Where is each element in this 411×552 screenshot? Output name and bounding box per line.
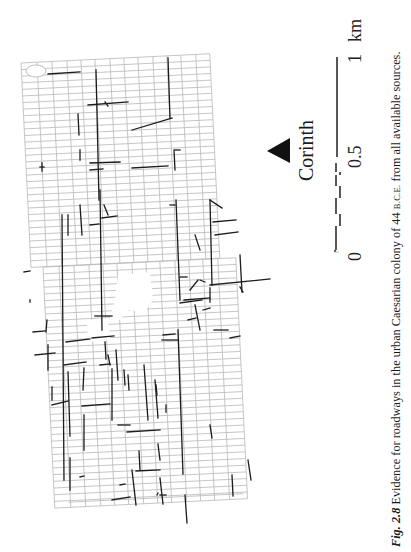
city-label: Corinth [295,120,318,181]
scale-label-half: 0.5 [345,146,366,169]
scale-label-unit: km [345,19,366,42]
era-label: B.C.E. [392,185,402,210]
roadway-map [0,0,411,552]
scale-bar [334,57,340,252]
book-page: Corinth 0 0.5 1 km Fig. 2.8 Evidence for… [0,0,411,552]
triangle-icon [267,138,290,163]
scale-label-one: 1 [345,54,366,63]
caption-text: Evidence for roadways in the urban Caesa… [389,209,403,507]
figure-number: Fig. 2.8 [389,508,403,547]
caption-tail: from all available sources. [389,51,403,184]
scale-label-zero: 0 [345,252,366,261]
figure-caption: Fig. 2.8 Evidence for roadways in the ur… [389,51,404,547]
